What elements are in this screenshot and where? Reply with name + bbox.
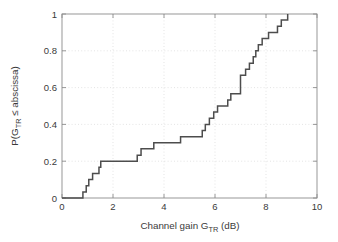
y-tick-label: 0.6 <box>44 82 57 93</box>
x-tick-label: 0 <box>59 201 64 212</box>
y-axis-title-subscript: TR <box>14 118 23 128</box>
y-axis-title-prefix: P(G <box>9 128 20 145</box>
cdf-chart-figure: 0 2 4 6 8 10 0 0.2 0.4 0.6 0.8 1 Channel… <box>0 0 338 242</box>
chart-svg: 0 2 4 6 8 10 0 0.2 0.4 0.6 0.8 1 Channel… <box>0 0 338 242</box>
y-tick-label: 0 <box>52 193 57 204</box>
x-axis-title: Channel gain GTR (dB) <box>140 220 239 234</box>
y-tick-labels: 0 0.2 0.4 0.6 0.8 1 <box>44 9 57 204</box>
x-tick-label: 2 <box>110 201 115 212</box>
x-axis-title-prefix: Channel gain G <box>140 220 208 231</box>
x-axis-title-suffix: (dB) <box>218 220 239 231</box>
x-axis-title-subscript: TR <box>209 225 219 234</box>
x-tick-label: 4 <box>161 201 166 212</box>
y-tick-label: 0.2 <box>44 156 57 167</box>
plot-background <box>62 14 317 198</box>
x-tick-label: 10 <box>312 201 323 212</box>
y-tick-label: 1 <box>52 9 57 20</box>
x-tick-label: 6 <box>212 201 217 212</box>
y-axis-title-suffix: ≤ abscissa) <box>9 66 20 118</box>
x-tick-labels: 0 2 4 6 8 10 <box>59 201 322 212</box>
y-axis-title: P(GTR ≤ abscissa) <box>9 66 23 145</box>
x-tick-label: 8 <box>263 201 268 212</box>
y-tick-label: 0.8 <box>44 45 57 56</box>
y-tick-label: 0.4 <box>44 119 57 130</box>
